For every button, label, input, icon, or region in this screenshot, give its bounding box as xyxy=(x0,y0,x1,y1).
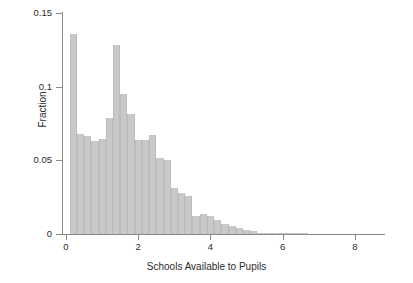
x-tick-label: 0 xyxy=(56,242,76,252)
histogram-figure: 00.050.10.15 02468 Fraction Schools Avai… xyxy=(0,0,413,283)
histogram-bar xyxy=(171,188,178,234)
histogram-bars xyxy=(66,13,373,234)
x-tick-mark xyxy=(138,235,139,240)
histogram-bar xyxy=(214,220,221,234)
y-tick-mark xyxy=(56,160,62,161)
histogram-bar xyxy=(135,140,142,234)
x-tick-label: 8 xyxy=(345,242,365,252)
histogram-bar xyxy=(192,216,199,234)
plot-area xyxy=(66,13,373,234)
x-axis-line xyxy=(62,234,385,235)
histogram-bar xyxy=(120,94,127,234)
x-tick-label: 6 xyxy=(273,242,293,252)
y-tick-label: 0 xyxy=(0,229,52,239)
y-tick-label: 0.15 xyxy=(0,8,52,18)
x-tick-label: 2 xyxy=(128,242,148,252)
histogram-bar xyxy=(149,135,156,234)
histogram-bar xyxy=(91,141,98,234)
y-tick-mark xyxy=(56,87,62,88)
x-tick-mark xyxy=(355,235,356,240)
x-tick-mark xyxy=(283,235,284,240)
histogram-bar xyxy=(156,158,163,234)
x-tick-mark xyxy=(210,235,211,240)
histogram-bar xyxy=(229,226,236,234)
x-tick-label: 4 xyxy=(200,242,220,252)
x-tick-mark xyxy=(66,235,67,240)
histogram-bar xyxy=(142,140,149,234)
histogram-bar xyxy=(178,193,185,234)
histogram-bar xyxy=(84,136,91,234)
y-tick-mark xyxy=(56,234,62,235)
histogram-bar xyxy=(200,214,207,234)
histogram-bar xyxy=(127,114,134,234)
histogram-bar xyxy=(106,118,113,234)
y-tick-mark xyxy=(56,13,62,14)
x-axis-title: Schools Available to Pupils xyxy=(0,261,413,272)
y-axis-line xyxy=(62,12,63,235)
histogram-bar xyxy=(164,160,171,234)
histogram-bar xyxy=(77,134,84,234)
histogram-bar xyxy=(221,224,228,234)
histogram-bar xyxy=(207,216,214,234)
histogram-bar xyxy=(185,196,192,234)
histogram-bar xyxy=(113,45,120,234)
histogram-bar xyxy=(70,34,77,234)
y-axis-title: Fraction xyxy=(37,60,48,160)
histogram-bar xyxy=(99,139,106,234)
